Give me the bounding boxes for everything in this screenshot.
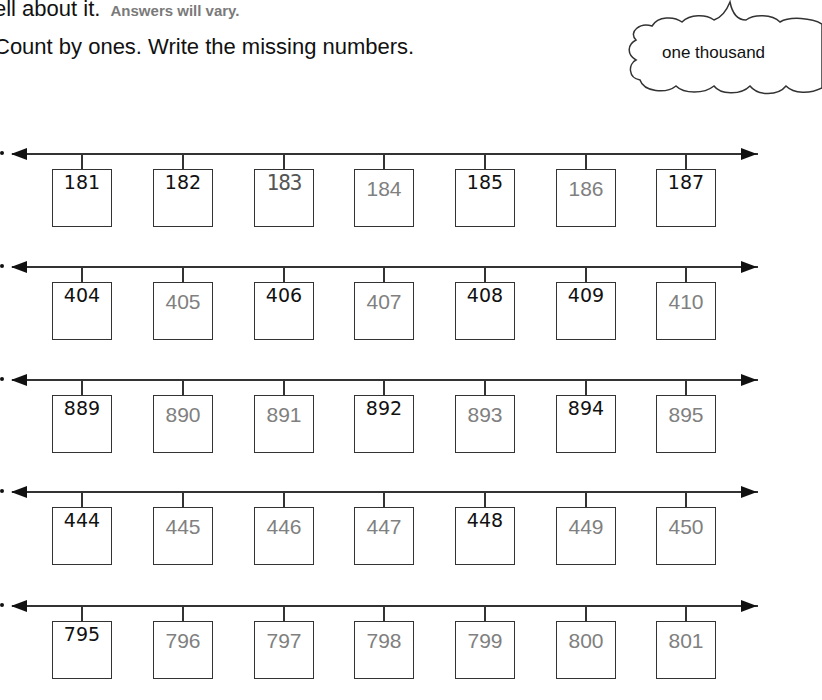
tick-mark <box>685 266 687 282</box>
given-number-box: 406 <box>254 266 314 340</box>
given-number-box: 892 <box>354 379 414 453</box>
tick-mark <box>585 605 587 621</box>
given-number-box: 795 <box>52 605 112 679</box>
tick-mark <box>81 266 83 282</box>
number-value: 447 <box>354 515 414 539</box>
number-line-row: 404405406407408409410 <box>0 266 807 356</box>
row-bullet <box>0 377 4 381</box>
tick-mark <box>383 605 385 621</box>
tick-mark <box>585 491 587 507</box>
number-value: 800 <box>556 629 616 653</box>
answer-number-box[interactable]: 891 <box>254 379 314 453</box>
tick-mark <box>283 153 285 169</box>
thought-cloud-icon: one thousand <box>622 0 822 95</box>
answer-number-box[interactable]: 797 <box>254 605 314 679</box>
tick-mark <box>383 491 385 507</box>
number-value: 186 <box>556 177 616 201</box>
number-value: 185 <box>455 171 515 193</box>
answer-number-box[interactable]: 450 <box>656 491 716 565</box>
row-bullet <box>0 151 4 155</box>
answer-number-box[interactable]: 447 <box>354 491 414 565</box>
number-value: 409 <box>556 284 616 306</box>
answer-note: Answers will vary. <box>111 2 240 19</box>
number-value: 444 <box>52 509 112 531</box>
row-bullet <box>0 603 4 607</box>
arrow-left-icon <box>11 374 27 386</box>
tick-mark <box>283 491 285 507</box>
given-number-box: 185 <box>455 153 515 227</box>
given-number-box: 182 <box>153 153 213 227</box>
tick-mark <box>685 605 687 621</box>
number-value: 450 <box>656 515 716 539</box>
number-value: 795 <box>52 623 112 645</box>
given-number-box: 409 <box>556 266 616 340</box>
tick-mark <box>182 153 184 169</box>
answer-number-box[interactable]: 893 <box>455 379 515 453</box>
row-bullet <box>0 264 4 268</box>
arrow-left-icon <box>11 600 27 612</box>
given-number-box: 181 <box>52 153 112 227</box>
answer-number-box[interactable]: 446 <box>254 491 314 565</box>
tick-mark <box>81 153 83 169</box>
number-value: 407 <box>354 290 414 314</box>
answer-number-box[interactable]: 890 <box>153 379 213 453</box>
given-number-box: 894 <box>556 379 616 453</box>
answer-number-box[interactable]: 183 <box>254 153 314 227</box>
number-value: 446 <box>254 515 314 539</box>
answer-number-box[interactable]: 445 <box>153 491 213 565</box>
number-value: 893 <box>455 403 515 427</box>
arrow-left-icon <box>11 486 27 498</box>
tick-mark <box>81 605 83 621</box>
tick-mark <box>182 266 184 282</box>
tick-mark <box>81 491 83 507</box>
answer-number-box[interactable]: 186 <box>556 153 616 227</box>
number-value: 406 <box>254 284 314 306</box>
tick-mark <box>383 379 385 395</box>
answer-number-box[interactable]: 410 <box>656 266 716 340</box>
number-value: 895 <box>656 403 716 427</box>
arrow-right-icon <box>741 600 757 612</box>
previous-question-tail: ell about it. Answers will vary. <box>0 0 239 22</box>
tick-mark <box>484 379 486 395</box>
number-value: 890 <box>153 403 213 427</box>
tick-mark <box>182 379 184 395</box>
number-value: 797 <box>254 629 314 653</box>
number-line-row: 795796797798799800801 <box>0 605 807 695</box>
answer-number-box[interactable]: 184 <box>354 153 414 227</box>
tick-mark <box>283 605 285 621</box>
number-value: 889 <box>52 397 112 419</box>
number-line-row: 889890891892893894895 <box>0 379 807 469</box>
tick-mark <box>685 153 687 169</box>
number-value: 449 <box>556 515 616 539</box>
answer-number-box[interactable]: 895 <box>656 379 716 453</box>
tick-mark <box>283 266 285 282</box>
number-value: 184 <box>354 177 414 201</box>
tick-mark <box>283 379 285 395</box>
given-number-box: 448 <box>455 491 515 565</box>
answer-number-box[interactable]: 449 <box>556 491 616 565</box>
number-value: 892 <box>354 397 414 419</box>
tick-mark <box>383 153 385 169</box>
answer-number-box[interactable]: 798 <box>354 605 414 679</box>
number-value: 891 <box>254 403 314 427</box>
cloud-text: one thousand <box>662 43 765 63</box>
number-value: 796 <box>153 629 213 653</box>
answer-number-box[interactable]: 799 <box>455 605 515 679</box>
number-value: 798 <box>354 629 414 653</box>
answer-number-box[interactable]: 405 <box>153 266 213 340</box>
number-value: 445 <box>153 515 213 539</box>
answer-number-box[interactable]: 800 <box>556 605 616 679</box>
number-value: 404 <box>52 284 112 306</box>
arrow-right-icon <box>741 374 757 386</box>
given-number-box: 444 <box>52 491 112 565</box>
number-value: 410 <box>656 290 716 314</box>
number-line-row: 181182183184185186187 <box>0 153 807 243</box>
tick-mark <box>585 153 587 169</box>
answer-number-box[interactable]: 407 <box>354 266 414 340</box>
answer-number-box[interactable]: 801 <box>656 605 716 679</box>
number-value: 799 <box>455 629 515 653</box>
number-value: 801 <box>656 629 716 653</box>
answer-number-box[interactable]: 796 <box>153 605 213 679</box>
tick-mark <box>484 266 486 282</box>
number-value: 181 <box>52 171 112 193</box>
